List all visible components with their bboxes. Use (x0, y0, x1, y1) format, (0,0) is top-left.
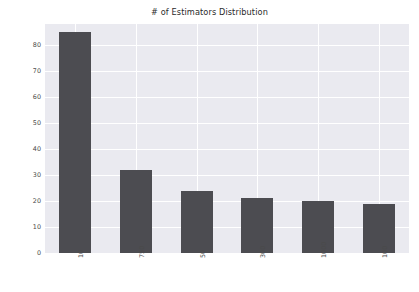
y-tick-label: 0 (18, 250, 41, 256)
bar[interactable] (59, 32, 91, 253)
gridline-horizontal (45, 123, 409, 124)
x-tick-label: 300 (260, 246, 266, 258)
gridline-horizontal (45, 71, 409, 72)
bar[interactable] (120, 170, 152, 253)
x-tick-label: 1000 (321, 242, 327, 258)
y-tick-label: 20 (18, 198, 41, 204)
bar[interactable] (241, 198, 273, 253)
bar-chart-figure: # of Estimators Distribution 01020304050… (0, 0, 419, 292)
x-tick-label: 750 (139, 246, 145, 258)
chart-title: # of Estimators Distribution (0, 7, 419, 17)
y-tick-label: 80 (18, 42, 41, 48)
y-tick-label: 30 (18, 172, 41, 178)
x-tick-label: 100 (382, 246, 388, 258)
gridline-horizontal (45, 201, 409, 202)
y-tick-label: 70 (18, 68, 41, 74)
gridline-horizontal (45, 97, 409, 98)
y-tick-label: 50 (18, 120, 41, 126)
y-tick-label: 40 (18, 146, 41, 152)
x-tick-label: 50 (200, 250, 206, 258)
plot-area (45, 24, 409, 253)
bar[interactable] (181, 191, 213, 253)
gridline-horizontal (45, 175, 409, 176)
x-tick-label: 10 (78, 250, 84, 258)
y-tick-label: 10 (18, 224, 41, 230)
bar[interactable] (302, 201, 334, 253)
gridline-horizontal (45, 149, 409, 150)
gridline-horizontal (45, 45, 409, 46)
y-tick-label: 60 (18, 94, 41, 100)
gridline-horizontal (45, 227, 409, 228)
bar[interactable] (363, 204, 395, 253)
